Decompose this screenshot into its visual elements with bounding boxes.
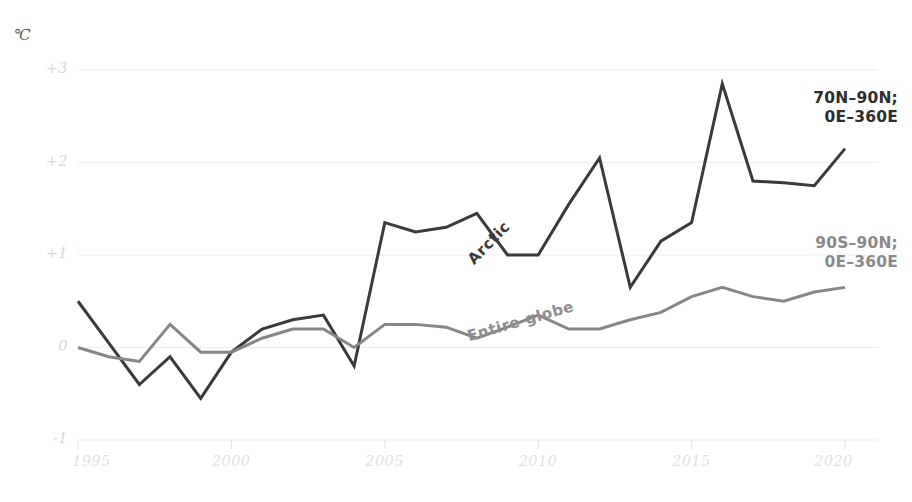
legend-label-globe: 90S–90N;0E–360E (748, 234, 898, 272)
legend-globe-line2: 0E–360E (825, 253, 898, 271)
series-line-entire-globe (78, 287, 845, 361)
x-tick-label: 2020 (814, 453, 853, 469)
y-tick-label: +1 (26, 245, 68, 261)
data-series-group (78, 84, 845, 399)
x-tick-label: 2010 (519, 453, 558, 469)
y-tick-label: +2 (26, 153, 68, 169)
x-tick-marks-group (78, 440, 845, 449)
x-tick-label: 2015 (672, 453, 711, 469)
legend-arctic-line1: 70N–90N; (813, 89, 898, 107)
temperature-anomaly-chart: ℃ +3+2+10-1 199520002005201020152020 70N… (0, 0, 912, 502)
legend-globe-line1: 90S–90N; (815, 234, 898, 252)
x-tick-label: 2000 (212, 453, 251, 469)
y-tick-label: 0 (26, 338, 68, 354)
x-tick-label: 2005 (365, 453, 404, 469)
y-tick-label: -1 (26, 430, 68, 446)
legend-arctic-line2: 0E–360E (825, 108, 898, 126)
series-line-arctic (78, 84, 845, 399)
y-tick-label: +3 (26, 60, 68, 76)
y-axis-unit-label: ℃ (14, 26, 31, 44)
x-tick-label: 1995 (72, 453, 111, 469)
legend-label-arctic: 70N–90N;0E–360E (748, 89, 898, 127)
